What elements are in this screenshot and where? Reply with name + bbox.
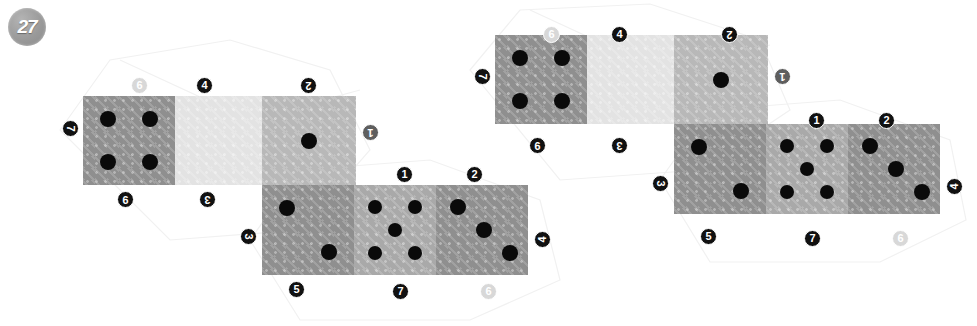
dice-pip <box>780 139 794 153</box>
dice-pip <box>691 139 707 155</box>
left-cluster-label-row2-2: 2 <box>466 166 483 183</box>
dice-pip <box>554 50 570 66</box>
dice-pip <box>368 200 382 214</box>
left-cluster-label-mid-9: 9 <box>117 191 134 208</box>
left-cluster-label-top-4: 4 <box>196 77 213 94</box>
dice-pip <box>780 185 794 199</box>
dice-pip <box>100 111 116 127</box>
dice-pip <box>476 222 492 238</box>
dice-pip <box>512 93 528 109</box>
right-cluster-label-row2-right-4: 4 <box>946 178 963 195</box>
dice-pip <box>888 161 904 177</box>
left-cluster-label-row2-1: 1 <box>396 166 413 183</box>
right-cluster-label-row2-7: 7 <box>804 230 821 247</box>
dice-pip <box>321 244 337 260</box>
dice-pip <box>100 154 116 170</box>
dice-pip <box>914 184 930 200</box>
left-cluster-label-right-1: 1 <box>362 124 379 141</box>
left-cluster-label-row2-5: 5 <box>288 281 305 298</box>
dice-tile-top-left[interactable] <box>495 35 587 124</box>
right-cluster-label-top-2: 2 <box>721 26 738 43</box>
left-cluster-label-top-6: 6 <box>131 77 148 94</box>
dice-pip <box>408 246 422 260</box>
right-cluster-label-row2-5: 5 <box>700 228 717 245</box>
dice-pip <box>279 200 295 216</box>
dice-tile-top-middle[interactable] <box>587 35 674 124</box>
right-cluster-label-top-4: 4 <box>611 26 628 43</box>
dice-tile-top-right[interactable] <box>262 96 356 185</box>
dice-pip <box>388 223 402 237</box>
dice-tile-bottom-right[interactable] <box>848 124 940 214</box>
dice-pip <box>142 111 158 127</box>
right-cluster-label-row2-6: 6 <box>892 230 909 247</box>
dice-tile-bottom-right[interactable] <box>436 185 528 275</box>
dice-pip <box>512 50 528 66</box>
right-cluster-label-top-6: 6 <box>543 26 560 43</box>
right-cluster-label-row2-left-3: 3 <box>652 175 669 192</box>
dice-tile-bottom-left[interactable] <box>262 185 354 275</box>
dice-pip <box>800 162 814 176</box>
left-cluster-label-mid-3: 3 <box>199 191 216 208</box>
counter-badge-value: 27 <box>17 16 36 38</box>
dice-tile-top-left[interactable] <box>83 96 175 185</box>
left-cluster-label-top-2: 2 <box>300 77 317 94</box>
dice-pip <box>142 154 158 170</box>
dice-pip <box>301 133 317 149</box>
right-cluster-label-row2-1: 1 <box>808 112 825 129</box>
left-cluster-label-row2-right-4: 4 <box>534 231 551 248</box>
right-cluster-label-right-1: 1 <box>774 68 791 85</box>
dice-tile-canvas: 27 6427193123457664271931234576 <box>0 0 977 326</box>
dice-pip <box>450 199 466 215</box>
right-cluster-label-mid-9: 9 <box>529 137 546 154</box>
dice-pip <box>502 245 518 261</box>
dice-pip <box>733 183 749 199</box>
dice-tile-bottom-left[interactable] <box>674 124 766 214</box>
dice-tile-top-middle[interactable] <box>175 96 262 185</box>
dice-tile-bottom-middle[interactable] <box>766 124 848 214</box>
left-cluster-label-row2-7: 7 <box>392 283 409 300</box>
counter-badge: 27 <box>8 8 46 46</box>
dice-pip <box>408 200 422 214</box>
dice-pip <box>713 72 729 88</box>
dice-pip <box>368 246 382 260</box>
right-cluster-label-left-7: 7 <box>474 68 491 85</box>
left-cluster-label-row2-left-3: 3 <box>240 228 257 245</box>
dice-pip <box>554 93 570 109</box>
dice-tile-top-right[interactable] <box>674 35 768 124</box>
dice-tile-bottom-middle[interactable] <box>354 185 436 275</box>
dice-pip <box>862 138 878 154</box>
left-cluster-label-left-7: 7 <box>62 120 79 137</box>
left-cluster-label-row2-6: 6 <box>480 283 497 300</box>
right-cluster-label-row2-2: 2 <box>878 112 895 129</box>
right-cluster-label-mid-3: 3 <box>611 137 628 154</box>
dice-pip <box>820 139 834 153</box>
dice-pip <box>820 185 834 199</box>
